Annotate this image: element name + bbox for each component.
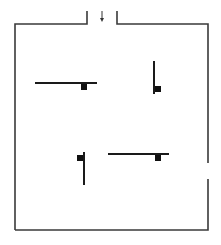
bottom-wall (15, 179, 208, 230)
obstacle-top-right (154, 61, 161, 94)
obstacle-bottom-right (108, 154, 169, 161)
marker-square (77, 155, 83, 161)
marker-square (81, 84, 87, 90)
marker-square (155, 86, 161, 92)
room-walls (15, 11, 208, 230)
obstacle-bottom-left (77, 152, 84, 185)
entrance-arrow-icon (100, 11, 104, 22)
top-right-wall (117, 11, 208, 163)
obstacle-top-left (35, 83, 97, 90)
top-left-wall (15, 11, 87, 230)
marker-square (155, 155, 161, 161)
floor-plan-diagram (0, 0, 221, 245)
